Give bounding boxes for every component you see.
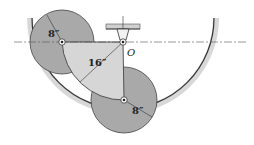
pin-left <box>59 39 65 45</box>
pin-lower <box>121 97 127 103</box>
lower-disk-radius-label: 8″ <box>132 105 144 116</box>
sector-radius-label: 16″ <box>88 57 107 68</box>
mechanism-diagram: 8″ 16″ 8″ O <box>0 0 254 145</box>
pivot-support <box>106 16 140 42</box>
left-disk-radius-label: 8″ <box>48 28 60 39</box>
pivot-label: O <box>127 47 135 58</box>
sector-plate <box>62 42 124 100</box>
pin-pivot-o <box>120 39 126 45</box>
diagram-canvas: 8″ 16″ 8″ O <box>0 0 254 145</box>
